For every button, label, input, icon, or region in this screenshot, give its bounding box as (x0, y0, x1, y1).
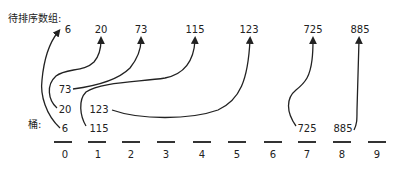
arrow-115 (81, 40, 195, 126)
arrow-20 (49, 40, 101, 108)
arrow-6 (42, 32, 60, 128)
arrow-885 (354, 40, 359, 130)
arrow-725 (289, 40, 314, 126)
arrow-123 (112, 40, 250, 118)
arrows-layer (0, 0, 400, 177)
